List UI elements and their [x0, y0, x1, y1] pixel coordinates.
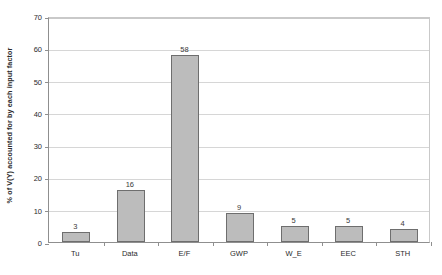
x-axis-category-label: Tu: [71, 249, 79, 258]
y-axis-tick-label: 50: [34, 77, 42, 86]
bar-chart: % of V(Y) accounted for by each input fa…: [0, 0, 442, 275]
bar-value-label: 58: [180, 45, 188, 54]
bar: [117, 190, 145, 242]
x-tick-mark: [376, 242, 377, 246]
x-axis-category-label: E/F: [179, 249, 191, 258]
bar-value-label: 3: [73, 222, 77, 231]
x-tick-mark: [158, 242, 159, 246]
y-tick-mark: [45, 50, 49, 51]
x-axis-category-label: STH: [395, 249, 410, 258]
y-axis-tick-label: 40: [34, 109, 42, 118]
y-axis-title: % of V(Y) accounted for by each input fa…: [0, 0, 20, 250]
y-axis-tick-label: 70: [34, 13, 42, 22]
y-tick-mark: [45, 82, 49, 83]
bar-value-label: 5: [346, 216, 350, 225]
bar: [171, 55, 199, 242]
bar-value-label: 4: [401, 219, 405, 228]
y-axis-tick-labels: 010203040506070: [20, 0, 45, 275]
bar-value-label: 16: [126, 180, 134, 189]
bar-value-label: 9: [237, 203, 241, 212]
x-tick-mark: [322, 242, 323, 246]
x-tick-mark: [213, 242, 214, 246]
y-axis-title-text: % of V(Y) accounted for by each input fa…: [6, 47, 15, 203]
bar: [390, 229, 418, 242]
gridline: [49, 179, 429, 180]
y-axis-tick-label: 20: [34, 174, 42, 183]
y-tick-mark: [45, 114, 49, 115]
gridline: [49, 50, 429, 51]
gridline: [49, 18, 429, 19]
x-axis-category-label: GWP: [230, 249, 248, 258]
y-axis-tick-label: 30: [34, 142, 42, 151]
x-tick-mark: [104, 242, 105, 246]
x-axis-category-label: Data: [122, 249, 138, 258]
gridline: [49, 114, 429, 115]
y-axis-tick-label: 10: [34, 206, 42, 215]
bar: [226, 213, 254, 242]
bar: [335, 226, 363, 242]
x-axis-category-label: EEC: [340, 249, 355, 258]
x-tick-mark: [267, 242, 268, 246]
y-tick-mark: [45, 147, 49, 148]
gridline: [49, 82, 429, 83]
y-axis-tick-label: 0: [38, 239, 42, 248]
y-tick-mark: [45, 244, 49, 245]
gridline: [49, 147, 429, 148]
bar-value-label: 5: [291, 216, 295, 225]
y-tick-mark: [45, 179, 49, 180]
x-axis-category-label: W_E: [285, 249, 301, 258]
bar: [281, 226, 309, 242]
x-tick-mark: [431, 242, 432, 246]
y-axis-tick-label: 60: [34, 45, 42, 54]
y-tick-mark: [45, 211, 49, 212]
bar: [62, 232, 90, 242]
y-tick-mark: [45, 18, 49, 19]
